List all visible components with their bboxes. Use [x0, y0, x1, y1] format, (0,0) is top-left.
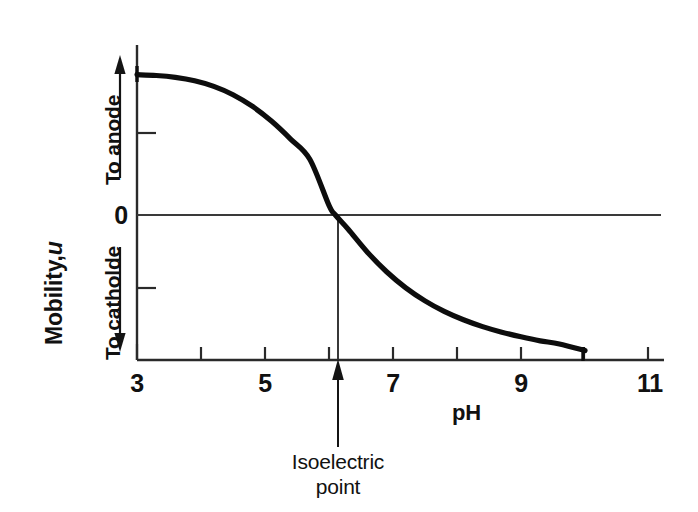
- x-axis-label: pH: [452, 400, 481, 426]
- mobility-ph-figure: Mobility,u To anode To catholde 0 3 5 7 …: [0, 0, 698, 512]
- x-tick-label-9: 9: [514, 369, 528, 398]
- isoelectric-point-label: Isoelectric point: [292, 450, 384, 500]
- x-tick-label-11: 11: [637, 369, 663, 398]
- y-axis-label: Mobility,u: [41, 241, 68, 345]
- to-anode-label: To anode: [101, 95, 125, 185]
- isoelectric-point-pointer: [332, 359, 344, 447]
- y-axis-label-symbol: u: [41, 241, 67, 255]
- isoelectric-point-line2: point: [292, 475, 384, 500]
- y-tick-label-zero: 0: [104, 201, 128, 230]
- isoelectric-point-line1: Isoelectric: [292, 450, 384, 475]
- y-axis-label-text: Mobility,: [41, 255, 67, 345]
- x-tick-label-3: 3: [130, 369, 144, 398]
- mobility-curve: [137, 75, 585, 351]
- to-catholde-label: To catholde: [101, 246, 125, 360]
- x-tick-label-5: 5: [258, 369, 272, 398]
- x-tick-label-7: 7: [386, 369, 400, 398]
